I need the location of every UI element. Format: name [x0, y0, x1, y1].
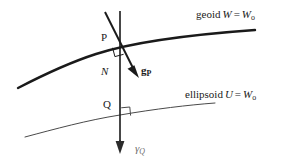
- normal-gravity-label: γQ: [135, 143, 145, 156]
- geoid-label-quantity: W: [222, 8, 231, 20]
- geoid-ellipsoid-diagram: geoidW=Wo ellipsoidU=Wo P Q N gP γQ: [0, 0, 292, 168]
- ellipsoid-label-value: W: [243, 88, 252, 100]
- geoid-curve: [18, 30, 255, 88]
- normal-gravity-arrow-head: [116, 141, 125, 154]
- geoid-label-value: W: [242, 8, 251, 20]
- normal-gravity-subscript: Q: [139, 147, 145, 156]
- gravity-vector-subscript: P: [147, 69, 152, 78]
- ellipsoid-label-name: ellipsoid: [185, 88, 223, 100]
- geoid-label-subscript: o: [251, 13, 255, 22]
- ellipsoid-label: ellipsoidU=Wo: [185, 89, 256, 102]
- gravity-arrow-head: [128, 65, 140, 78]
- gravity-vector-label: gP: [141, 65, 151, 78]
- point-q-label: Q: [103, 99, 111, 110]
- diagram-canvas: [0, 0, 292, 168]
- ellipsoid-label-subscript: o: [252, 93, 256, 102]
- point-p-label: P: [101, 32, 107, 43]
- geoid-label: geoidW=Wo: [196, 9, 255, 22]
- plumb-line: [105, 12, 133, 68]
- undulation-label: N: [101, 66, 108, 77]
- ellipsoid-label-quantity: U: [225, 88, 233, 100]
- geoid-label-equals: =: [234, 8, 240, 20]
- geoid-label-name: geoid: [196, 8, 220, 20]
